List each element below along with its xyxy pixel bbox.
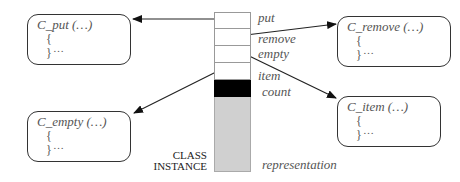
field-cell-item — [214, 63, 251, 80]
routine-body-ellipsis: … — [363, 124, 375, 136]
routine-signature: C_remove (…) — [347, 19, 423, 35]
routine-signature: C_item (…) — [347, 99, 408, 115]
routine-signature: C_put (…) — [37, 17, 92, 33]
arrow-item — [134, 70, 220, 113]
routine-body-ellipsis: … — [53, 139, 65, 151]
field-label-representation: representation — [262, 158, 337, 171]
routine-close-brace: } — [46, 46, 52, 61]
routine-box-c-remove: C_remove (…) { } … — [337, 16, 451, 67]
field-label-empty: empty — [258, 47, 289, 60]
field-cell-remove — [214, 29, 251, 46]
routine-box-c-empty: C_empty (…) { } … — [27, 111, 131, 162]
field-label-put: put — [258, 11, 275, 24]
routine-box-c-item: C_item (…) { } … — [337, 96, 441, 147]
class-instance-label: CLASS INSTANCE — [153, 150, 207, 172]
field-label-remove: remove — [258, 32, 296, 45]
routine-box-c-put: C_put (…) { } … — [27, 14, 131, 65]
routine-open-brace: { — [356, 34, 362, 49]
field-label-item: item — [258, 69, 280, 82]
class-instance-label-line2: INSTANCE — [153, 161, 207, 172]
routine-body-ellipsis: … — [363, 44, 375, 56]
routine-body-ellipsis: … — [53, 42, 65, 54]
field-cell-put — [214, 12, 251, 29]
routine-close-brace: } — [356, 128, 362, 143]
routine-open-brace: { — [46, 129, 52, 144]
routine-open-brace: { — [356, 114, 362, 129]
routine-open-brace: { — [46, 32, 52, 47]
routine-close-brace: } — [356, 48, 362, 63]
routine-close-brace: } — [46, 143, 52, 158]
field-cell-representation — [214, 97, 251, 172]
diagram-canvas: put remove empty item count representati… — [0, 0, 460, 182]
field-cell-empty — [214, 46, 251, 63]
routine-signature: C_empty (…) — [37, 114, 107, 130]
field-label-count: count — [262, 85, 291, 98]
field-cell-count — [214, 80, 251, 97]
